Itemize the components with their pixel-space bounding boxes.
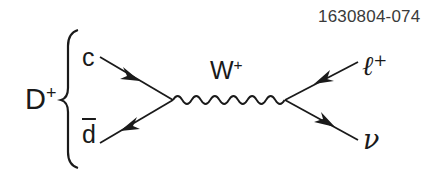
lepton-charge: +: [373, 50, 387, 70]
boson-symbol: W: [210, 56, 234, 84]
arrow-icon: [314, 112, 335, 127]
w-boson-propagator: [173, 96, 285, 104]
arrow-icon: [120, 117, 140, 131]
neutrino-label: ν: [363, 126, 379, 153]
quark-c-label: c: [82, 45, 95, 70]
feynman-diagram: 1630804-074 D+ c d W+ ℓ+ ν: [0, 0, 435, 176]
meson-charge: +: [46, 83, 57, 103]
figure-id: 1630804-074: [318, 8, 420, 25]
quark-d-symbol: d: [82, 120, 96, 148]
meson-label: D+: [25, 85, 56, 114]
boson-charge: +: [234, 56, 243, 73]
meson-symbol: D: [25, 83, 46, 115]
quark-dbar-label: d: [82, 122, 96, 147]
lepton-symbol: ℓ: [362, 50, 373, 81]
arrow-icon: [120, 67, 140, 81]
brace-icon: [61, 30, 78, 168]
boson-label: W+: [210, 58, 243, 83]
dbar-quark-line: [100, 100, 173, 143]
lepton-label: ℓ+: [362, 52, 387, 79]
